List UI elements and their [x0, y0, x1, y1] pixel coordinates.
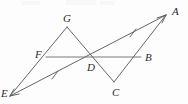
point-label-C: C [112, 87, 119, 98]
geometry-figure: A B C D E F G [0, 0, 188, 104]
point-label-A: A [172, 6, 179, 17]
point-label-E: E [1, 88, 8, 99]
diagram-canvas [0, 0, 188, 104]
point-label-B: B [145, 52, 152, 63]
segment-G-to-E [10, 27, 67, 96]
point-label-D: D [87, 62, 95, 73]
point-label-G: G [63, 13, 71, 24]
ray-E-to-A [10, 15, 166, 96]
segment-G-to-C [67, 27, 114, 82]
segment-C-to-A [114, 15, 166, 82]
point-label-F: F [35, 49, 42, 60]
